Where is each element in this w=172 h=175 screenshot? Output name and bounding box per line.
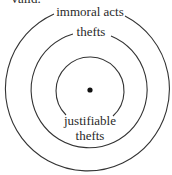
inner-circle-label-line2: thefts [76,128,105,143]
cut-header-text: Valid. [10,0,41,6]
inner-circle-label-line1: justifiable [63,113,116,128]
center-point [87,87,92,92]
outer-circle-label: immoral acts [56,4,124,19]
concentric-circles-diagram: Valid. immoral acts thefts justifiable t… [0,0,172,175]
diagram-canvas: Valid. immoral acts thefts justifiable t… [0,0,172,175]
inner-circle [56,57,124,116]
middle-circle-label: thefts [77,24,106,39]
